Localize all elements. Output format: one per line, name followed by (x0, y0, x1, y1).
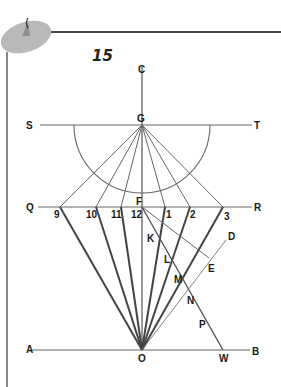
figure-number: 15 (92, 47, 113, 65)
label-m: M (174, 274, 182, 285)
label-o: O (138, 353, 146, 364)
label-q: Q (26, 202, 34, 213)
label-r: R (254, 202, 262, 213)
hour-label-2: 2 (190, 209, 196, 220)
label-a: A (26, 344, 33, 355)
label-g: G (137, 113, 145, 124)
label-s: S (26, 120, 33, 131)
hour-label-11: 11 (111, 209, 122, 220)
hour-label-9: 9 (54, 209, 60, 220)
label-d: D (228, 231, 235, 242)
label-c: C (138, 64, 145, 75)
hour-label-10: 10 (86, 209, 98, 220)
sundial-construction-diagram: 15 C G S T Q R F A B O W D E K L M (0, 0, 281, 387)
label-p: P (199, 319, 206, 330)
diagram-canvas: 15 C G S T Q R F A B O W D E K L M (0, 0, 281, 387)
label-e: E (208, 263, 215, 274)
label-l: L (164, 254, 170, 265)
label-k: K (147, 233, 155, 244)
label-b: B (252, 346, 259, 357)
hour-label-12: 12 (131, 209, 143, 220)
hour-label-1: 1 (166, 209, 172, 220)
label-f: F (136, 196, 142, 207)
label-n: N (187, 295, 194, 306)
label-t: T (254, 120, 260, 131)
hour-label-3: 3 (224, 211, 230, 222)
label-w: W (219, 353, 229, 364)
pushpin-icon (0, 15, 55, 60)
